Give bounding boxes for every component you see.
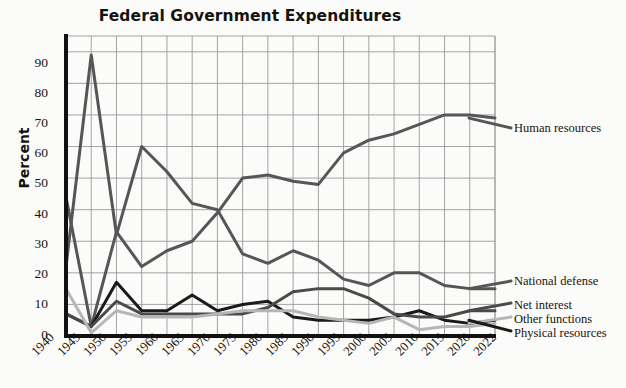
chart-figure: Federal Government Expenditures Percent … bbox=[0, 0, 626, 388]
label-connectors bbox=[469, 118, 511, 331]
series-lines bbox=[66, 55, 495, 333]
series-line-other-functions bbox=[66, 289, 495, 333]
series-line-national-defense bbox=[66, 55, 495, 289]
axis-lines bbox=[64, 34, 496, 337]
plot-canvas bbox=[0, 0, 626, 388]
